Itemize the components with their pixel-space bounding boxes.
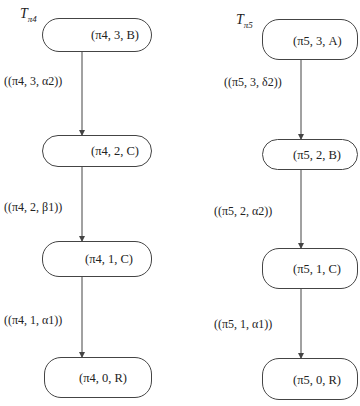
tree-node: (π5, 2, B) <box>262 139 358 170</box>
edge-label: ((π5, 1, α1)) <box>214 317 272 331</box>
tree-node: (π4, 2, C) <box>42 135 152 167</box>
node-label: (π5, 3, A) <box>293 34 342 48</box>
node-label: (π5, 2, B) <box>293 148 341 162</box>
tree-title-pi4: Tπ4 <box>20 6 37 24</box>
edge-label: ((π4, 2, β1)) <box>4 200 62 214</box>
node-label: (π4, 0, R) <box>79 371 127 385</box>
node-label: (π5, 0, R) <box>293 373 341 387</box>
tree-node: (π4, 3, B) <box>42 18 152 52</box>
node-label: (π4, 3, B) <box>91 28 139 42</box>
tree-node: (π5, 0, R) <box>262 358 358 400</box>
edge-label: ((π4, 3, α2)) <box>4 74 62 88</box>
node-label: (π5, 1, C) <box>293 262 341 276</box>
edge-label: ((π5, 3, δ2)) <box>224 75 282 89</box>
tree-node: (π5, 3, A) <box>262 19 358 60</box>
node-label: (π4, 2, C) <box>91 144 139 158</box>
edge-label: ((π5, 2, α2)) <box>214 204 272 218</box>
tree-node: (π4, 1, C) <box>42 241 152 277</box>
tree-title-pi5: Tπ5 <box>236 12 253 30</box>
tree-node: (π5, 1, C) <box>262 248 358 289</box>
edge-label: ((π4, 1, α1)) <box>4 313 62 327</box>
node-label: (π4, 1, C) <box>85 252 133 266</box>
tree-node: (π4, 0, R) <box>44 357 152 398</box>
